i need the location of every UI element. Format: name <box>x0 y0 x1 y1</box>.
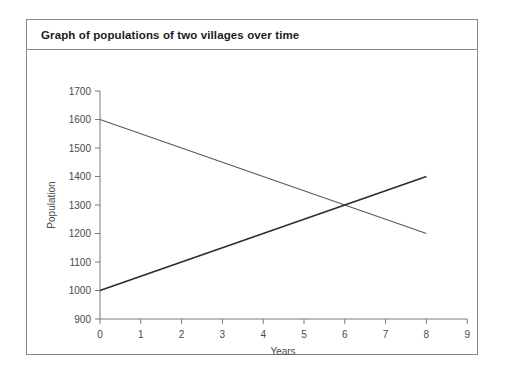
x-tick-label: 7 <box>383 329 389 340</box>
y-tick-label: 1700 <box>69 86 92 97</box>
y-tick-label: 1000 <box>69 285 92 296</box>
x-tick-label: 4 <box>260 329 266 340</box>
y-tick-label: 1100 <box>69 257 91 268</box>
x-tick-labels: 0 1 2 3 4 5 6 7 8 9 <box>97 329 470 340</box>
x-tick-label: 2 <box>179 329 185 340</box>
line-chart: 900 1000 1100 1200 1300 1400 1500 1600 1… <box>27 51 477 355</box>
series-declining-village-line <box>100 120 426 234</box>
x-tick-label: 5 <box>301 329 307 340</box>
x-tick-label: 8 <box>424 329 430 340</box>
y-tick-marks <box>95 91 100 319</box>
chart-header: Graph of populations of two villages ove… <box>27 20 477 50</box>
y-tick-label: 1600 <box>69 114 92 125</box>
plot-area: 900 1000 1100 1200 1300 1400 1500 1600 1… <box>27 51 477 354</box>
screenshot-root: Graph of populations of two villages ove… <box>0 0 510 375</box>
y-tick-label: 1300 <box>69 200 92 211</box>
y-tick-label: 900 <box>74 314 91 325</box>
chart-frame: Graph of populations of two villages ove… <box>26 19 478 355</box>
x-tick-label: 1 <box>138 329 144 340</box>
y-tick-label: 1500 <box>69 143 92 154</box>
y-tick-label: 1200 <box>69 228 92 239</box>
x-tick-label: 6 <box>342 329 348 340</box>
x-axis-title: Years <box>270 346 295 355</box>
x-tick-label: 3 <box>220 329 226 340</box>
chart-title: Graph of populations of two villages ove… <box>27 29 299 41</box>
y-tick-labels: 900 1000 1100 1200 1300 1400 1500 1600 1… <box>69 86 92 325</box>
x-tick-label: 9 <box>464 329 470 340</box>
x-tick-label: 0 <box>97 329 103 340</box>
x-tick-marks <box>100 319 467 324</box>
y-tick-label: 1400 <box>69 171 92 182</box>
y-axis-title: Population <box>46 181 57 228</box>
series-growing-village-line <box>100 177 426 291</box>
